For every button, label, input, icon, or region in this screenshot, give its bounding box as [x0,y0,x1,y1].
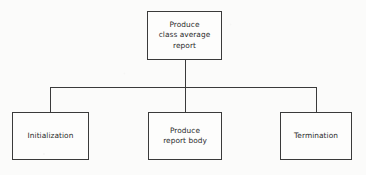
node-produce-class-average-report[interactable]: Produce class average report [147,11,222,60]
node-label-produce-report-body: Produce report body [160,126,210,147]
node-label-termination: Termination [291,131,341,141]
node-initialization[interactable]: Initialization [12,112,89,160]
node-label-produce-class-average-report: Produce class average report [156,20,214,51]
node-termination[interactable]: Termination [280,112,352,160]
connector-lines [50,60,317,112]
node-label-initialization: Initialization [25,131,77,141]
structure-chart-diagram: Produce class average report Initializat… [0,0,366,175]
node-produce-report-body[interactable]: Produce report body [148,112,222,160]
